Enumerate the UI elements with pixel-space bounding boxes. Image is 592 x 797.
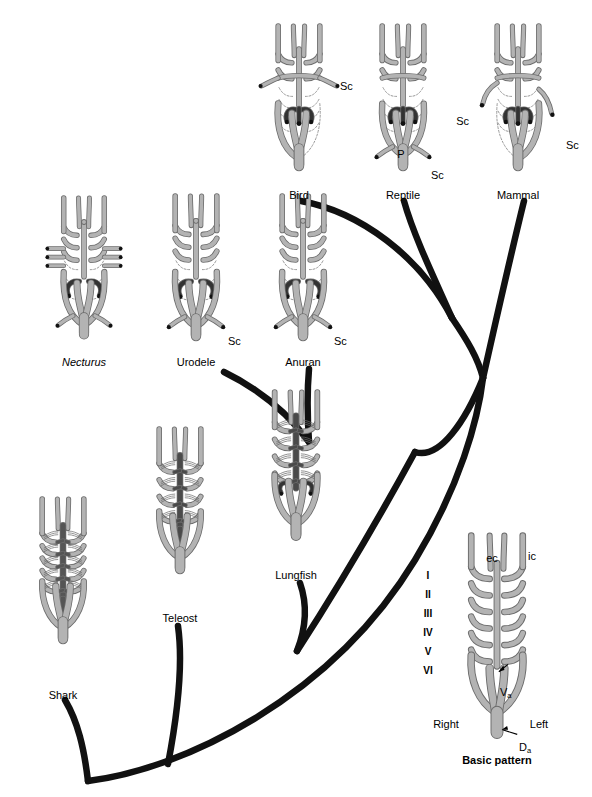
taxon-label-bird: Bird xyxy=(289,190,309,201)
taxon-label-teleost: Teleost xyxy=(163,613,198,624)
figure-canvas: SharkTeleostLungfishNecturusUrodeleScAnu… xyxy=(0,0,592,797)
diagram-reptile xyxy=(375,26,432,166)
diagram-lungfish xyxy=(275,392,318,535)
taxon-label-shark: Shark xyxy=(49,690,78,701)
right-side-label: Right xyxy=(433,719,459,730)
arch-numeral-II: II xyxy=(425,589,431,600)
annotation-mammal-sc-1: Sc xyxy=(566,140,579,151)
left-side-label: Left xyxy=(530,719,548,730)
diagram-anuran xyxy=(274,196,333,336)
diagram-necturus xyxy=(45,198,122,334)
taxon-label-necturus: Necturus xyxy=(62,357,106,368)
arch-numeral-III: III xyxy=(424,608,432,619)
arch-numeral-VI: VI xyxy=(423,665,432,676)
annotation-anuran-sc-0: Sc xyxy=(334,336,347,347)
external-carotid-label: ec xyxy=(486,553,498,564)
annotation-bird-sc-0: Sc xyxy=(340,81,353,92)
annotation-urodele-sc-0: Sc xyxy=(228,336,241,347)
arch-numeral-I: I xyxy=(427,570,430,581)
diagram-bird xyxy=(259,26,340,166)
aortic-arch-diagrams xyxy=(0,0,592,797)
internal-carotid-label: ic xyxy=(528,551,536,562)
annotation-reptile-p-0: P xyxy=(397,149,404,160)
dorsal-aorta-label: Da xyxy=(519,742,531,756)
diagram-basic-pattern xyxy=(471,536,523,735)
diagram-shark xyxy=(42,499,84,639)
diagram-urodele xyxy=(167,196,226,336)
annotation-mammal-sc-0: Sc xyxy=(456,116,469,127)
diagram-mammal xyxy=(480,26,555,166)
annotation-reptile-sc-1: Sc xyxy=(431,170,444,181)
taxon-label-mammal: Mammal xyxy=(497,190,539,201)
arch-numeral-V: V xyxy=(425,646,432,657)
taxon-label-lungfish: Lungfish xyxy=(275,570,317,581)
ventral-aorta-label: Va xyxy=(500,687,512,701)
basic-pattern-label: Basic pattern xyxy=(462,755,532,766)
taxon-label-anuran: Anuran xyxy=(285,357,320,368)
taxon-label-urodele: Urodele xyxy=(177,357,216,368)
arch-numeral-IV: IV xyxy=(423,627,432,638)
diagram-teleost xyxy=(159,429,201,569)
taxon-label-reptile: Reptile xyxy=(386,190,420,201)
